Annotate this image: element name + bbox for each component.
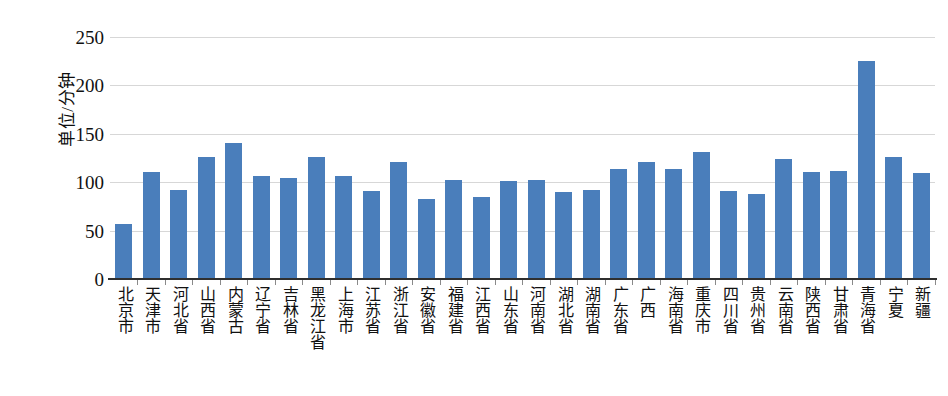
bar-slot <box>688 37 716 279</box>
bar-slot <box>413 37 441 279</box>
x-category-label: 广东省 <box>611 286 627 334</box>
x-label-slot: 山东省 <box>495 286 523 390</box>
bar-slot <box>248 37 276 279</box>
tick-slot <box>908 280 936 285</box>
x-category-label: 湖北省 <box>556 286 572 334</box>
x-category-label: 湖南省 <box>583 286 599 334</box>
bar-slot <box>468 37 496 279</box>
y-tick-label: 0 <box>46 270 104 289</box>
bar <box>500 181 517 279</box>
x-category-label: 广西 <box>638 286 654 318</box>
y-tick-label: 100 <box>46 173 104 192</box>
bar-slot <box>605 37 633 279</box>
bar <box>720 191 737 279</box>
bar <box>225 143 242 279</box>
tick-slot <box>358 280 386 285</box>
bar-slot <box>165 37 193 279</box>
tick-slot <box>880 280 908 285</box>
bar-slot <box>193 37 221 279</box>
bars-layer <box>110 37 935 279</box>
x-label-slot: 安徽省 <box>413 286 441 390</box>
tick-slot <box>578 280 606 285</box>
tick-slot <box>413 280 441 285</box>
tick-slot <box>523 280 551 285</box>
x-label-slot: 福建省 <box>440 286 468 390</box>
x-label-slot: 贵州省 <box>743 286 771 390</box>
bar <box>885 157 902 279</box>
bar <box>253 176 270 279</box>
x-label-slot: 重庆市 <box>688 286 716 390</box>
tick-slot <box>853 280 881 285</box>
x-label-slot: 江西省 <box>468 286 496 390</box>
bar <box>830 171 847 279</box>
x-category-label: 山西省 <box>198 286 214 334</box>
bar <box>693 152 710 279</box>
bar <box>638 162 655 279</box>
bar-slot <box>220 37 248 279</box>
x-label-slot: 河南省 <box>523 286 551 390</box>
x-category-label: 新疆 <box>913 286 929 318</box>
bar <box>115 224 132 279</box>
tick-slot <box>798 280 826 285</box>
x-category-label: 陕西省 <box>803 286 819 334</box>
x-category-label: 江西省 <box>473 286 489 334</box>
tick-slot <box>468 280 496 285</box>
y-tick-label: 200 <box>46 76 104 95</box>
x-category-label: 甘肃省 <box>831 286 847 334</box>
bar-slot <box>633 37 661 279</box>
x-category-label: 海南省 <box>666 286 682 334</box>
x-label-slot: 黑龙江省 <box>303 286 331 390</box>
y-tick-label: 50 <box>46 221 104 240</box>
tick-slot <box>165 280 193 285</box>
x-label-slot: 海南省 <box>660 286 688 390</box>
x-axis-category-labels: 北京市天津市河北省山西省内蒙古辽宁省吉林省黑龙江省上海市江苏省浙江省安徽省福建省… <box>110 286 935 390</box>
x-label-slot: 江苏省 <box>358 286 386 390</box>
x-label-slot: 甘肃省 <box>825 286 853 390</box>
bar <box>803 172 820 279</box>
bar-slot <box>550 37 578 279</box>
bar <box>198 157 215 279</box>
tick-slot <box>825 280 853 285</box>
bar-slot <box>743 37 771 279</box>
tick-slot <box>660 280 688 285</box>
bar-slot <box>275 37 303 279</box>
bar-slot <box>715 37 743 279</box>
x-category-label: 江苏省 <box>363 286 379 334</box>
x-category-label: 山东省 <box>501 286 517 334</box>
bar <box>528 180 545 279</box>
tick-slot <box>275 280 303 285</box>
tick-slot <box>550 280 578 285</box>
bar <box>748 194 765 279</box>
bar <box>170 190 187 279</box>
bar <box>583 190 600 279</box>
bar-slot <box>440 37 468 279</box>
x-label-slot: 湖北省 <box>550 286 578 390</box>
tick-slot <box>688 280 716 285</box>
bar <box>665 169 682 279</box>
x-category-label: 吉林省 <box>281 286 297 334</box>
x-category-label: 浙江省 <box>391 286 407 334</box>
bar <box>913 173 930 279</box>
x-label-slot: 新疆 <box>908 286 936 390</box>
x-label-slot: 四川省 <box>715 286 743 390</box>
bar-slot <box>138 37 166 279</box>
bar <box>363 191 380 279</box>
bar <box>335 176 352 279</box>
x-category-label: 河北省 <box>171 286 187 334</box>
y-tick-label: 150 <box>46 124 104 143</box>
bar <box>308 157 325 279</box>
x-label-slot: 浙江省 <box>385 286 413 390</box>
tick-slot <box>303 280 331 285</box>
bar <box>858 61 875 279</box>
tick-mark <box>935 280 936 285</box>
tick-slot <box>743 280 771 285</box>
tick-slot <box>385 280 413 285</box>
bar-slot <box>578 37 606 279</box>
bar-slot <box>908 37 936 279</box>
x-category-label: 辽宁省 <box>253 286 269 334</box>
x-label-slot: 陕西省 <box>798 286 826 390</box>
bar <box>143 172 160 279</box>
bar <box>610 169 627 279</box>
x-category-label: 安徽省 <box>418 286 434 334</box>
bar-slot <box>770 37 798 279</box>
